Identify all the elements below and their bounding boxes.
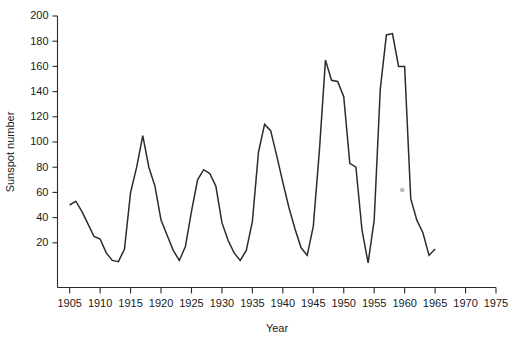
x-axis-title: Year [266,322,289,334]
x-tick-label: 1910 [88,297,112,309]
x-axis-ticks: 1905191019151920192519301935194019451950… [57,288,508,310]
y-tick-label: 200 [30,9,48,21]
y-tick-label: 60 [36,186,48,198]
x-tick-label: 1915 [118,297,142,309]
x-tick-label: 1935 [240,297,264,309]
y-axis-ticks: 20406080100120140160180200 [30,9,57,248]
y-tick-label: 120 [30,110,48,122]
y-tick-label: 160 [30,60,48,72]
y-axis-title: Sunspot number [4,111,16,192]
x-tick-label: 1920 [149,297,173,309]
x-tick-label: 1905 [57,297,81,309]
x-tick-label: 1970 [453,297,477,309]
chart-canvas: 20406080100120140160180200 1905191019151… [0,0,509,339]
x-tick-label: 1975 [484,297,508,309]
x-tick-label: 1945 [301,297,325,309]
y-tick-label: 40 [36,211,48,223]
sunspot-number-chart: 20406080100120140160180200 1905191019151… [0,0,509,339]
speck-mark [400,188,404,192]
y-tick-label: 100 [30,135,48,147]
x-tick-label: 1955 [362,297,386,309]
x-tick-label: 1950 [332,297,356,309]
x-tick-label: 1925 [179,297,203,309]
x-tick-label: 1940 [271,297,295,309]
y-tick-label: 180 [30,35,48,47]
x-tick-label: 1965 [423,297,447,309]
x-tick-label: 1960 [392,297,416,309]
y-tick-label: 80 [36,161,48,173]
y-tick-label: 20 [36,236,48,248]
sunspot-series-line [70,34,435,263]
y-tick-label: 140 [30,85,48,97]
chart-speck-marks [400,188,404,192]
x-tick-label: 1930 [210,297,234,309]
